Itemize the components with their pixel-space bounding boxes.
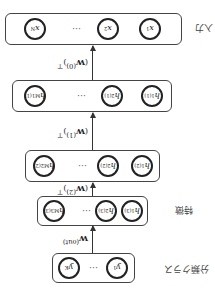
input-node-N: xN	[24, 18, 46, 40]
hidden-layer-2-box: h1(2) h2(2) … hM2(2)	[25, 150, 160, 182]
output-node-1: y1	[106, 257, 128, 279]
input-label: 入力	[195, 22, 213, 35]
arrow-down	[92, 183, 93, 196]
feature-node-M3: hM3(3)	[43, 200, 65, 222]
output-layer-box: y1 … yK	[52, 253, 135, 283]
ellipsis: …	[77, 93, 86, 103]
feature-label: 特徴	[175, 204, 193, 217]
hidden1-node-M1: hM1(1)	[24, 85, 46, 107]
ellipsis: …	[72, 26, 81, 36]
arrow-down	[92, 46, 93, 80]
weight-label-out: W(out)	[63, 234, 88, 246]
neural-network-diagram: x1 x2 … xN 入力 (W(0))⊤ h1(1) h2(1) … hM1(…	[0, 0, 215, 292]
hidden1-node-2: h2(1)	[101, 85, 123, 107]
output-node-K: yK	[58, 257, 80, 279]
feature-layer-box: h1(3) h2(3) … hM3(3)	[37, 196, 148, 226]
output-label: 分類クラス	[164, 263, 209, 276]
weight-label-1: (W(1))⊤	[57, 127, 88, 139]
input-node-2: x2	[97, 18, 119, 40]
ellipsis: …	[82, 208, 91, 218]
weight-label-2: (W(2))⊤	[57, 184, 88, 196]
ellipsis: …	[78, 163, 87, 173]
hidden2-node-2: h2(2)	[97, 155, 119, 177]
weight-label-0: (W(0))⊤	[57, 58, 88, 70]
hidden2-node-1: h1(2)	[131, 155, 153, 177]
clipped-caption	[35, 0, 187, 5]
feature-node-1: h1(3)	[121, 200, 143, 222]
hidden1-node-1: h1(1)	[141, 85, 163, 107]
input-layer-box: x1 x2 … xN	[5, 13, 182, 45]
arrow-down	[92, 226, 93, 255]
arrow-down	[92, 113, 93, 150]
feature-node-2: h2(3)	[95, 200, 117, 222]
input-node-1: x1	[139, 18, 161, 40]
hidden-layer-1-box: h1(1) h2(1) … hM1(1)	[12, 80, 172, 112]
hidden2-node-M2: hM2(2)	[33, 155, 55, 177]
ellipsis: …	[89, 265, 98, 275]
